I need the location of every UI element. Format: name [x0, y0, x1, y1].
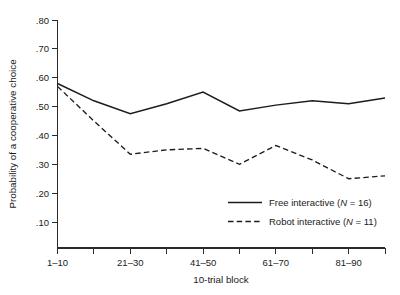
y-tick-label-5: .30 — [36, 159, 49, 170]
chart-background — [0, 0, 400, 295]
y-tick-label-0: .80 — [36, 15, 49, 26]
x-tick-label-1: 21–30 — [117, 257, 143, 268]
y-tick-label-3: .50 — [36, 101, 49, 112]
legend-label-free-interactive: Free interactive (N = 16) — [269, 197, 372, 208]
y-tick-label-4: .40 — [36, 130, 49, 141]
x-tick-label-4: 81–90 — [335, 257, 361, 268]
y-tick-label-7: .10 — [36, 217, 49, 228]
x-tick-label-0: 1–10 — [47, 257, 68, 268]
x-axis-title: 10-trial block — [193, 274, 249, 285]
y-tick-label-6: .20 — [36, 188, 49, 199]
x-tick-label-3: 61–70 — [263, 257, 289, 268]
line-chart-figure: .80 .70 .60 .50 .40 .30 .20 .10 Probabil… — [0, 0, 400, 295]
y-axis-title: Probability of a cooperative choice — [7, 59, 18, 209]
legend-label-robot-interactive: Robot interactive (N = 11) — [269, 216, 377, 227]
y-tick-label-2: .60 — [36, 72, 49, 83]
y-tick-label-1: .70 — [36, 43, 49, 54]
x-tick-label-2: 41–50 — [190, 257, 216, 268]
